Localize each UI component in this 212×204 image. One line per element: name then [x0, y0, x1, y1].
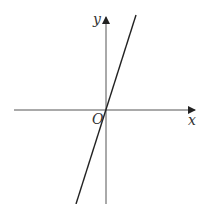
y-axis-label: y	[92, 11, 102, 27]
diagram-svg: y O x	[0, 0, 212, 204]
x-axis-label: x	[188, 112, 196, 128]
coordinate-diagram: y O x	[0, 0, 212, 204]
origin-label: O	[92, 111, 104, 127]
